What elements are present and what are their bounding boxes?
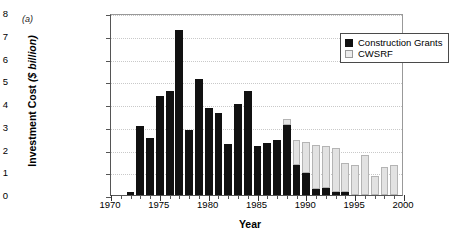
gridline: [111, 15, 402, 16]
bar-segment: [351, 165, 359, 195]
bar-segment: [341, 163, 349, 192]
y-tick-label: 2: [0, 145, 8, 156]
x-tick-label: 1975: [137, 199, 181, 210]
bar-segment: [136, 126, 144, 195]
y-axis-title: Investment Cost ($ billion): [26, 16, 38, 186]
bar-segment: [156, 96, 164, 195]
bar: [195, 79, 203, 195]
bar-segment: [127, 192, 135, 195]
y-axis-title-main: Investment Cost: [26, 85, 38, 167]
bar: [146, 138, 154, 195]
bar: [371, 176, 379, 195]
y-axis-title-unit: ($ billion): [26, 35, 38, 82]
x-tick-label: 1970: [88, 199, 132, 210]
bar: [234, 104, 242, 195]
bar: [341, 163, 349, 195]
x-axis-title: Year: [95, 218, 405, 230]
bar: [312, 145, 320, 196]
bar: [205, 108, 213, 195]
legend-swatch-icon: [345, 39, 353, 47]
bar-segment: [224, 144, 232, 195]
bar: [166, 91, 174, 195]
bar-segment: [341, 192, 349, 195]
y-tick: [106, 152, 111, 153]
bar-segment: [302, 142, 310, 173]
bar: [244, 91, 252, 195]
bar-segment: [302, 173, 310, 195]
bar: [390, 165, 398, 195]
bar-segment: [283, 119, 291, 124]
legend-item: CWSRF: [345, 48, 442, 59]
bar-segment: [205, 108, 213, 195]
bar: [332, 148, 340, 195]
gridline: [111, 106, 402, 107]
bar-segment: [263, 143, 271, 195]
bar: [175, 30, 183, 195]
bar-segment: [273, 140, 281, 196]
bar: [263, 143, 271, 195]
bar-segment: [371, 176, 379, 195]
bar-segment: [185, 130, 193, 195]
bar-segment: [175, 30, 183, 195]
y-tick: [106, 15, 111, 16]
legend-swatch-icon: [345, 50, 353, 58]
bar-segment: [283, 125, 291, 195]
y-tick-label: 5: [0, 76, 8, 87]
y-tick: [106, 129, 111, 130]
bar-segment: [146, 138, 154, 195]
plot-area: Construction GrantsCWSRF: [110, 14, 403, 196]
bar: [156, 96, 164, 195]
y-tick: [106, 38, 111, 39]
bar: [361, 155, 369, 195]
legend: Construction GrantsCWSRF: [340, 33, 449, 63]
bar-segment: [312, 145, 320, 189]
bar-segment: [322, 188, 330, 195]
bar-segment: [322, 146, 330, 189]
bar-segment: [390, 165, 398, 195]
bar: [127, 192, 135, 195]
x-tick-label: 1980: [186, 199, 230, 210]
y-tick: [106, 83, 111, 84]
legend-label: CWSRF: [358, 48, 393, 59]
y-tick-label: 0: [0, 190, 8, 201]
y-tick-label: 1: [0, 167, 8, 178]
bar: [293, 140, 301, 195]
y-tick-label: 3: [0, 122, 8, 133]
bar-segment: [361, 155, 369, 195]
y-tick: [106, 61, 111, 62]
bar-segment: [293, 165, 301, 195]
x-tick-label: 1985: [235, 199, 279, 210]
bar-segment: [312, 189, 320, 195]
bar: [381, 167, 389, 195]
bar-segment: [332, 148, 340, 191]
gridline: [111, 129, 402, 130]
y-tick: [106, 174, 111, 175]
bar-segment: [234, 104, 242, 195]
y-tick-label: 4: [0, 99, 8, 110]
bar: [185, 130, 193, 195]
bar: [302, 142, 310, 195]
bar: [224, 144, 232, 195]
bar: [283, 119, 291, 195]
bar-segment: [195, 79, 203, 195]
bar-segment: [293, 140, 301, 165]
x-tick-label: 2000: [381, 199, 425, 210]
bar-segment: [244, 91, 252, 195]
y-tick: [106, 106, 111, 107]
legend-item: Construction Grants: [345, 37, 442, 48]
y-tick-label: 7: [0, 31, 8, 42]
bar-segment: [381, 167, 389, 195]
bar: [136, 126, 144, 195]
bar: [351, 165, 359, 195]
bar-segment: [166, 91, 174, 195]
legend-label: Construction Grants: [358, 37, 442, 48]
bar: [215, 113, 223, 195]
bar: [254, 146, 262, 195]
x-tick-label: 1995: [332, 199, 376, 210]
x-tick-label: 1990: [283, 199, 327, 210]
y-tick-label: 6: [0, 54, 8, 65]
bar-segment: [254, 146, 262, 195]
bar: [322, 146, 330, 195]
bar: [273, 140, 281, 196]
